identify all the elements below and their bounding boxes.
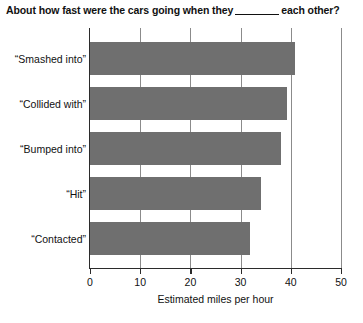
category-label: “Bumped into” [2,143,86,155]
x-axis-line [89,268,342,269]
category-label: “Smashed into” [2,53,86,65]
x-tick-label: 30 [229,276,253,288]
x-tick-10 [140,269,141,274]
bar [90,132,281,165]
chart-title-prefix: About how fast were the cars going when … [6,4,233,16]
x-tick-label: 0 [78,276,102,288]
plot-area [90,28,341,268]
fill-in-blank [235,14,279,15]
bar [90,87,287,120]
x-tick-label: 10 [128,276,152,288]
chart-title: About how fast were the cars going when … [6,4,358,17]
x-tick-0 [90,269,91,274]
x-tick-50 [341,269,342,274]
x-tick-label: 50 [329,276,353,288]
x-tick-label: 20 [178,276,202,288]
bar [90,177,261,210]
x-tick-30 [241,269,242,274]
category-axis-labels: “Smashed into”“Collided with”“Bumped int… [0,28,86,268]
gridline-50 [341,28,342,268]
category-label: “Collided with” [2,98,86,110]
x-tick-label: 40 [279,276,303,288]
bar [90,42,295,75]
y-axis-line [89,28,90,269]
category-label: “Hit” [2,188,86,200]
chart-title-suffix: each other? [281,4,339,16]
category-label: “Contacted” [2,233,86,245]
x-axis-title: Estimated miles per hour [90,293,341,305]
x-tick-40 [291,269,292,274]
bar-chart-figure: About how fast were the cars going when … [0,0,363,323]
x-tick-20 [190,269,191,274]
bar [90,222,250,255]
